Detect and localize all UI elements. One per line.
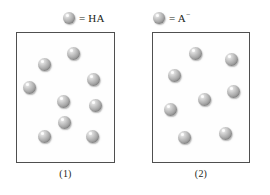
legend-species-a: A xyxy=(178,12,186,24)
particle-sphere xyxy=(38,130,51,143)
legend-item-ha: = HA xyxy=(63,9,105,27)
gray-sphere-icon xyxy=(153,12,165,24)
panel-1-caption: (1) xyxy=(16,169,115,179)
particle-sphere xyxy=(58,116,71,129)
legend-charge-superscript: − xyxy=(186,10,190,19)
panel-2-caption: (2) xyxy=(152,169,250,179)
particle-sphere xyxy=(198,93,211,106)
legend-equals-sign: = xyxy=(169,12,175,24)
particle-sphere xyxy=(168,69,181,82)
particle-sphere xyxy=(87,73,100,86)
particle-sphere xyxy=(178,131,191,144)
particle-sphere xyxy=(86,130,99,143)
panel-2-particles xyxy=(153,33,249,162)
legend-label-ha: = HA xyxy=(79,13,105,24)
legend-label-a-minus: = A− xyxy=(169,13,190,24)
particle-sphere xyxy=(189,47,202,60)
gray-sphere-icon xyxy=(63,12,75,24)
particle-sphere xyxy=(23,81,36,94)
panel-2-container xyxy=(152,32,250,163)
particle-sphere xyxy=(38,58,51,71)
particle-sphere xyxy=(227,85,240,98)
particle-sphere xyxy=(67,47,80,60)
legend: = HA = A− xyxy=(0,9,270,29)
legend-equals-sign: = xyxy=(79,12,85,24)
particle-sphere xyxy=(89,99,102,112)
molecular-illustration: = HA = A− (1) (2) xyxy=(0,0,270,195)
panel-1-particles xyxy=(17,33,114,162)
particle-sphere xyxy=(57,95,70,108)
legend-species-ha: HA xyxy=(88,12,104,24)
particle-sphere xyxy=(219,127,232,140)
panel-1-container xyxy=(16,32,115,163)
particle-sphere xyxy=(225,53,238,66)
particle-sphere xyxy=(164,103,177,116)
legend-item-a-minus: = A− xyxy=(153,9,190,27)
